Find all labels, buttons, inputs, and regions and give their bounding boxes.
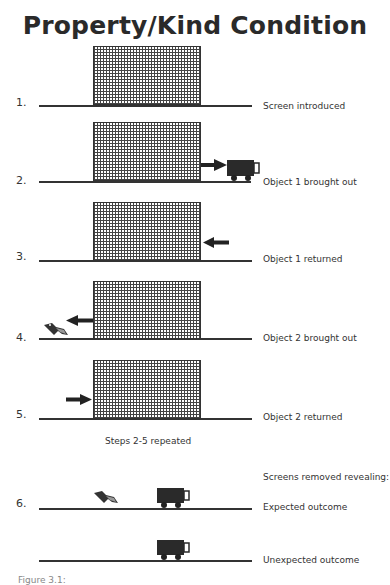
ground-line — [39, 338, 252, 340]
step-number: 4. — [16, 331, 27, 344]
reveal-note: Screens removed revealing: — [263, 472, 389, 482]
bird-icon — [92, 489, 120, 505]
step-number: 2. — [16, 174, 27, 187]
ground-line — [39, 181, 251, 183]
arrow-right-icon — [66, 394, 92, 405]
ground-line — [39, 260, 252, 262]
step-label: Screen introduced — [263, 101, 345, 111]
truck-icon — [157, 540, 191, 561]
bird-icon — [42, 321, 70, 339]
step-number: 5. — [16, 408, 27, 421]
screen-occluder — [93, 360, 201, 419]
arrow-right-icon — [201, 159, 227, 171]
arrow-left-icon — [66, 315, 93, 326]
ground-line — [39, 508, 252, 510]
screen-occluder — [93, 46, 201, 105]
step-label: Object 2 returned — [263, 412, 343, 422]
truck-icon — [157, 488, 191, 509]
ground-line — [39, 560, 252, 562]
step-number: 3. — [16, 250, 27, 263]
diagram-title: Property/Kind Condition — [0, 11, 390, 40]
step-number: 6. — [16, 497, 27, 510]
step-label: Object 1 brought out — [263, 177, 357, 187]
screen-occluder — [93, 281, 201, 340]
step-label: Object 1 returned — [263, 254, 343, 264]
step-number: 1. — [16, 96, 27, 109]
unexpected-label: Unexpected outcome — [263, 555, 359, 565]
screen-occluder — [93, 202, 201, 261]
ground-line — [39, 105, 252, 107]
screen-occluder — [93, 122, 201, 181]
step-label: Object 2 brought out — [263, 333, 357, 343]
step-label: Expected outcome — [263, 502, 347, 512]
figure-caption: Figure 3.1: — [18, 575, 66, 585]
arrow-left-icon — [203, 237, 229, 248]
ground-line — [39, 418, 252, 420]
truck-icon — [227, 160, 261, 182]
repeat-note: Steps 2-5 repeated — [105, 436, 191, 446]
